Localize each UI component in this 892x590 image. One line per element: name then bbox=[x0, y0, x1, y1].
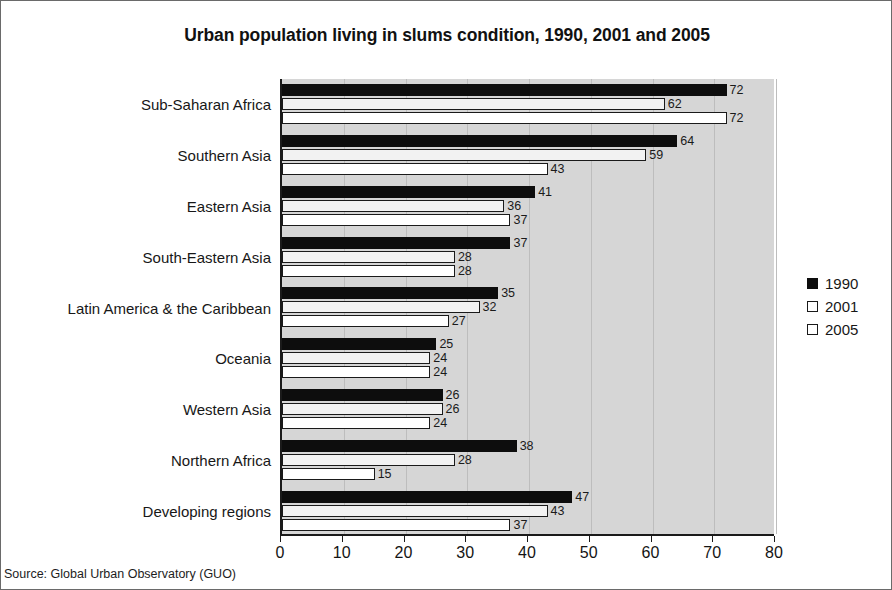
legend-label: 1990 bbox=[825, 275, 858, 292]
bar[interactable] bbox=[282, 338, 436, 350]
chart-legend: 199020012005 bbox=[807, 272, 885, 341]
legend-swatch bbox=[807, 324, 818, 335]
bar[interactable] bbox=[282, 149, 646, 161]
bar[interactable] bbox=[282, 505, 548, 517]
legend-label: 2005 bbox=[825, 321, 858, 338]
bar-line: 36 bbox=[282, 200, 774, 212]
chart-page: Urban population living in slums conditi… bbox=[0, 0, 892, 590]
bar-value-label: 64 bbox=[677, 134, 694, 148]
bar[interactable] bbox=[282, 84, 727, 96]
bar-line: 62 bbox=[282, 98, 774, 110]
bar-line: 32 bbox=[282, 301, 774, 313]
bar[interactable] bbox=[282, 454, 455, 466]
x-axis-tick bbox=[712, 536, 713, 542]
bar-line: 37 bbox=[282, 214, 774, 226]
bar-value-label: 24 bbox=[430, 416, 447, 430]
category-label: Sub-Saharan Africa bbox=[14, 96, 280, 113]
bar-line: 25 bbox=[282, 338, 774, 350]
x-axis-tick bbox=[774, 536, 775, 542]
bar[interactable] bbox=[282, 265, 455, 277]
legend-swatch bbox=[807, 278, 818, 289]
bar[interactable] bbox=[282, 237, 510, 249]
bar-line: 47 bbox=[282, 491, 774, 503]
bar[interactable] bbox=[282, 389, 443, 401]
category-label: Oceania bbox=[14, 350, 280, 367]
bar[interactable] bbox=[282, 403, 443, 415]
bar-value-label: 43 bbox=[548, 503, 565, 517]
bar[interactable] bbox=[282, 440, 517, 452]
bar-line: 38 bbox=[282, 440, 774, 452]
x-axis-tick-label: 30 bbox=[456, 544, 474, 562]
bar-group: 262624 bbox=[282, 384, 774, 435]
bar[interactable] bbox=[282, 352, 430, 364]
category-label: Developing regions bbox=[14, 502, 280, 519]
bar-value-label: 37 bbox=[510, 213, 527, 227]
bar-line: 35 bbox=[282, 287, 774, 299]
legend-item-2001[interactable]: 2001 bbox=[807, 295, 885, 318]
category-label: Southern Asia bbox=[14, 147, 280, 164]
category-label: Western Asia bbox=[14, 401, 280, 418]
bar[interactable] bbox=[282, 214, 510, 226]
bar[interactable] bbox=[282, 468, 375, 480]
legend-swatch bbox=[807, 301, 818, 312]
bar-value-label: 36 bbox=[504, 199, 521, 213]
bar[interactable] bbox=[282, 315, 449, 327]
bar[interactable] bbox=[282, 251, 455, 263]
gridline bbox=[776, 79, 777, 534]
x-axis-tick-label: 80 bbox=[765, 544, 783, 562]
bar-group: 372828 bbox=[282, 231, 774, 282]
bar[interactable] bbox=[282, 519, 510, 531]
bar[interactable] bbox=[282, 135, 677, 147]
category-label: Eastern Asia bbox=[14, 197, 280, 214]
source-note: Source: Global Urban Observatory (GUO) bbox=[4, 567, 236, 581]
bar-value-label: 72 bbox=[727, 83, 744, 97]
legend-label: 2001 bbox=[825, 298, 858, 315]
bar-value-label: 24 bbox=[430, 351, 447, 365]
bar-line: 59 bbox=[282, 149, 774, 161]
x-axis-tick bbox=[280, 536, 281, 542]
chart-title: Urban population living in slums conditi… bbox=[1, 25, 892, 46]
bar-value-label: 35 bbox=[498, 286, 515, 300]
category-label: South-Eastern Asia bbox=[14, 248, 280, 265]
bar[interactable] bbox=[282, 200, 504, 212]
legend-item-1990[interactable]: 1990 bbox=[807, 272, 885, 295]
bar[interactable] bbox=[282, 417, 430, 429]
x-axis-tick bbox=[651, 536, 652, 542]
bar-value-label: 41 bbox=[535, 185, 552, 199]
bar-value-label: 28 bbox=[455, 263, 472, 277]
bar[interactable] bbox=[282, 366, 430, 378]
legend-item-2005[interactable]: 2005 bbox=[807, 318, 885, 341]
x-axis-tick-label: 0 bbox=[276, 544, 285, 562]
category-label: Latin America & the Caribbean bbox=[14, 299, 280, 316]
bar[interactable] bbox=[282, 491, 572, 503]
bar-line: 37 bbox=[282, 237, 774, 249]
bar-group: 645943 bbox=[282, 130, 774, 181]
x-axis-tick bbox=[527, 536, 528, 542]
bar[interactable] bbox=[282, 112, 727, 124]
bar-line: 41 bbox=[282, 186, 774, 198]
bar-value-label: 27 bbox=[449, 314, 466, 328]
bar-line: 28 bbox=[282, 265, 774, 277]
bar-line: 26 bbox=[282, 389, 774, 401]
bar-line: 28 bbox=[282, 454, 774, 466]
x-axis-tick-label: 10 bbox=[333, 544, 351, 562]
bar-value-label: 59 bbox=[646, 148, 663, 162]
x-axis-tick-label: 50 bbox=[580, 544, 598, 562]
bar-line: 24 bbox=[282, 417, 774, 429]
bar-line: 15 bbox=[282, 468, 774, 480]
bar[interactable] bbox=[282, 287, 498, 299]
bar-value-label: 43 bbox=[548, 162, 565, 176]
bar-line: 43 bbox=[282, 163, 774, 175]
bar[interactable] bbox=[282, 301, 480, 313]
category-axis-labels: Sub-Saharan AfricaSouthern AsiaEastern A… bbox=[1, 79, 280, 536]
bar-value-label: 24 bbox=[430, 365, 447, 379]
bar-group: 474337 bbox=[282, 485, 774, 536]
bar-value-label: 26 bbox=[443, 388, 460, 402]
bar[interactable] bbox=[282, 98, 665, 110]
bar-line: 28 bbox=[282, 251, 774, 263]
bar-value-label: 37 bbox=[510, 517, 527, 531]
bar[interactable] bbox=[282, 186, 535, 198]
bar-line: 64 bbox=[282, 135, 774, 147]
bar-line: 24 bbox=[282, 366, 774, 378]
bar[interactable] bbox=[282, 163, 548, 175]
